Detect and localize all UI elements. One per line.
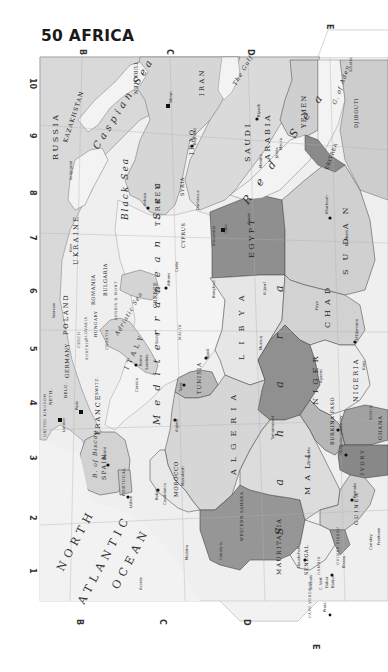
- capital-marker-madrid: [106, 463, 109, 466]
- place-label-timbuktu: Timbuktu: [306, 447, 311, 466]
- place-label-st-louis: St-Louis: [308, 575, 313, 590]
- country-label-libya: LIBYA: [237, 285, 246, 360]
- capital-marker-khartoum: [328, 216, 331, 219]
- place-label-bissau: Bissau: [341, 555, 346, 568]
- place-label-ndjamena: N'Djamena: [354, 319, 359, 340]
- grid-number: 3: [28, 455, 37, 461]
- place-label-murzuq: Murzuq: [258, 335, 263, 350]
- place-label-riyadh: Riyadh: [256, 103, 261, 117]
- grid-number: 2: [28, 515, 37, 521]
- country-label-czech: CZECH: [77, 332, 81, 348]
- grid-number: 5: [28, 346, 37, 352]
- grid-number: 10: [28, 78, 37, 90]
- place-label-casablanca: Casablanca: [162, 483, 167, 505]
- place-label-athens: Athens: [166, 273, 171, 286]
- place-label-damascus: Damascus: [195, 190, 200, 210]
- grid-number: 9: [28, 133, 37, 139]
- country-label-nigeria: NIGERIA: [352, 358, 360, 402]
- country-label-cyprus: CYPRUS: [180, 223, 186, 249]
- place-label-ankara: Ankara: [142, 193, 147, 206]
- country-label-neth: NETH.: [48, 388, 53, 405]
- country-label-ghana: GHANA: [377, 415, 383, 440]
- country-label-belg: BELG.: [63, 382, 68, 398]
- country-label-germany: GERMANY: [64, 343, 70, 378]
- africa-map: B C D E B C D E 10 9 8 7 6 5 4 3 2 1 NOR…: [0, 0, 388, 672]
- place-label-praia: Praia: [322, 603, 327, 613]
- place-label-warsaw: Warsaw: [51, 303, 56, 318]
- country-label-serbia: SERBIA & MONT.: [114, 280, 118, 320]
- biscay-label: B. of Biscay: [91, 430, 99, 479]
- country-label-poland: POLAND: [62, 293, 70, 335]
- place-label-canary: Canary Is.: [218, 541, 223, 560]
- country-label-algeria: ALGERIA: [229, 388, 238, 476]
- country-label-uk: UNITED KINGDOM: [43, 393, 47, 437]
- place-label-lisbon: Lisbon: [128, 495, 133, 508]
- country-label-bulgaria: BULGARIA: [102, 263, 108, 296]
- country-label-ivory: IVORY: [359, 448, 365, 475]
- place-label-al-jawf: Al Jawf: [262, 282, 267, 295]
- place-label-madeira: Madeira: [184, 545, 189, 560]
- grid-letters-bottom: B C D E: [75, 619, 320, 649]
- grid-letter: C: [165, 49, 174, 55]
- country-label-western-sahara: WESTERN SAHARA: [239, 492, 244, 541]
- place-label-dakar: Dakar: [324, 576, 329, 588]
- place-label-tamanrasset: Tamanrasset: [270, 415, 275, 441]
- cape-verde-region: [220, 601, 318, 621]
- country-label-chad: CHAD: [323, 283, 332, 328]
- place-label-agadez: Agadez: [318, 369, 323, 383]
- place-label-banjul: Banjul: [330, 576, 335, 588]
- grid-number: 8: [28, 190, 37, 196]
- grid-numbers-left: 10 9 8 7 6 5 4 3 2 1: [28, 78, 37, 574]
- black-sea-label: Black Sea: [120, 157, 130, 221]
- grid-letter: D: [242, 619, 251, 626]
- place-label-jedda: Jedda: [274, 147, 279, 159]
- place-label-khartoum: Khartoum: [324, 195, 329, 214]
- grid-letter: C: [158, 619, 167, 625]
- place-label-kiev: Kiev: [68, 243, 73, 252]
- place-label-kano: Kano: [361, 360, 366, 370]
- country-label-syria: SYRIA: [179, 177, 185, 196]
- place-label-niamey: Niamey: [338, 415, 343, 430]
- place-label-el-obeid: El Obeid: [344, 230, 349, 246]
- capital-marker-ouagadougou: [344, 453, 347, 456]
- country-label-france: FRANCE: [94, 393, 102, 435]
- country-label-russia: RUSSIA: [51, 112, 60, 160]
- place-label-benghazi: Benghazi: [211, 280, 216, 298]
- place-label-azores: Azores: [138, 577, 143, 590]
- capital-marker-praia: [329, 614, 332, 617]
- place-label-sicily: Sicily: [154, 333, 159, 344]
- place-label-tripoli: Tripoli: [205, 349, 210, 361]
- place-label-faya: Faya: [314, 301, 319, 310]
- grid-letter: E: [311, 644, 320, 649]
- place-label-bamako: Bamako: [352, 482, 357, 498]
- place-label-c-vert: C. Vert: [318, 577, 323, 590]
- place-label-crete: Crete: [174, 261, 179, 272]
- country-label-benin: BENIN: [369, 404, 373, 420]
- country-label-ukraine: UKRAINE: [72, 215, 80, 265]
- place-label-aswan: Aswan: [246, 212, 251, 225]
- country-label-arabia: ARABIA: [263, 113, 272, 161]
- country-label-mauritania: MAURITANIA: [275, 518, 282, 575]
- country-label-romania: ROMANIA: [90, 274, 96, 305]
- country-label-malta: MALTA: [178, 324, 182, 340]
- place-label-freetown: Freetown: [376, 527, 381, 545]
- place-label-volgograd: Volgograd: [68, 160, 73, 180]
- country-label-gambia: GAMBIA: [317, 556, 321, 575]
- capital-marker-dakar: [330, 573, 333, 576]
- place-label-tehran: Tehran: [168, 91, 173, 105]
- place-label-medina: Medina: [258, 154, 263, 168]
- place-label-ouagadougou: Ouagadougou: [338, 428, 343, 455]
- place-label-sardinia: Sardinia: [144, 355, 149, 370]
- grid-letter: B: [78, 49, 87, 55]
- capital-marker-nouakchott: [303, 558, 306, 561]
- place-label-algiers: Algiers: [174, 419, 179, 432]
- place-label-tunis: Tunis: [178, 382, 183, 393]
- place-label-madrid: Madrid: [102, 446, 107, 460]
- country-label-switz: SWITZ.: [94, 376, 99, 395]
- place-label-cairo: Cairo: [223, 223, 228, 234]
- place-label-rome: Rome: [138, 355, 143, 366]
- country-label-morocco: MOROCCO: [173, 461, 179, 497]
- country-label-iran: IRAN: [198, 68, 206, 96]
- country-label-croatia: CROATIA: [105, 329, 109, 350]
- country-label-yemen: YEMEN: [300, 94, 308, 129]
